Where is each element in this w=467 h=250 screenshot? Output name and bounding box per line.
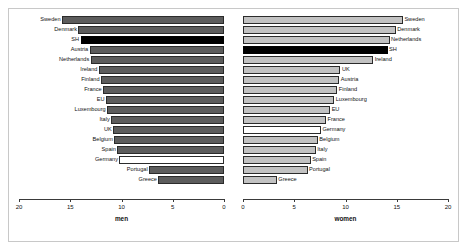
axis-tick (173, 199, 174, 202)
bar-sh (243, 46, 388, 54)
bar-track (243, 46, 448, 54)
chart-figure: SwedenDenmarkSHAustriaNetherlandsIreland… (8, 8, 459, 242)
bar-row: Italy (243, 145, 448, 155)
bar-sweden (243, 16, 403, 24)
bar-row: Greece (19, 175, 224, 185)
bar-portugal (149, 166, 224, 174)
chart-panel-men: SwedenDenmarkSHAustriaNetherlandsIreland… (9, 9, 235, 243)
bar-germany (243, 126, 321, 134)
category-label: Italy (99, 114, 109, 124)
bar-austria (90, 46, 224, 54)
bar-track (243, 116, 448, 124)
x-axis-women: 05101520 (243, 199, 448, 200)
category-label: Sweden (40, 14, 60, 24)
bar-track (19, 116, 224, 124)
axis-tick (397, 199, 398, 202)
category-label: Finland (339, 84, 357, 94)
bar-track (243, 166, 448, 174)
bar-row: Luxembourg (19, 105, 224, 115)
category-label: SH (71, 34, 79, 44)
axis-tick (294, 199, 295, 202)
bar-track (243, 176, 448, 184)
bar-row: Greece (243, 175, 448, 185)
bar-row: Spain (243, 155, 448, 165)
axis-tick-label: 10 (118, 204, 125, 210)
bar-ireland (243, 56, 373, 64)
bar-eu (243, 106, 330, 114)
bar-track (19, 46, 224, 54)
bar-track (243, 56, 448, 64)
bar-row: Germany (243, 125, 448, 135)
bar-row: EU (243, 105, 448, 115)
plot-area-men: SwedenDenmarkSHAustriaNetherlandsIreland… (19, 15, 224, 197)
category-label: Austria (341, 74, 358, 84)
bar-row: Spain (19, 145, 224, 155)
bar-luxembourg (243, 96, 334, 104)
axis-tick-label: 10 (342, 204, 349, 210)
bar-row: Germany (19, 155, 224, 165)
axis-tick-label: 0 (241, 204, 244, 210)
bar-eu (106, 96, 224, 104)
category-label: UK (342, 64, 350, 74)
bar-france (103, 86, 224, 94)
category-label: Spain (102, 144, 116, 154)
category-label: Germany (322, 124, 345, 134)
category-label: Ireland (80, 64, 97, 74)
bar-row: Italy (19, 115, 224, 125)
bar-uk (113, 126, 224, 134)
axis-tick (70, 199, 71, 202)
bar-track (243, 126, 448, 134)
category-label: Denmark (54, 24, 77, 34)
bar-finland (101, 76, 224, 84)
bar-sweden (62, 16, 224, 24)
bar-track (19, 176, 224, 184)
bar-track (19, 26, 224, 34)
bar-row: Denmark (19, 25, 224, 35)
category-label: Denmark (397, 24, 420, 34)
bar-row: UK (19, 125, 224, 135)
bar-greece (158, 176, 224, 184)
axis-tick (122, 199, 123, 202)
bar-track (19, 156, 224, 164)
bar-belgium (114, 136, 224, 144)
bar-germany (119, 156, 224, 164)
category-label: SH (389, 44, 397, 54)
bar-austria (243, 76, 339, 84)
bar-row: Austria (19, 45, 224, 55)
axis-tick (346, 199, 347, 202)
bar-track (19, 106, 224, 114)
category-label: Germany (95, 154, 118, 164)
bar-track (19, 76, 224, 84)
bar-netherlands (91, 56, 224, 64)
category-label: Luxembourg (75, 104, 106, 114)
bar-track (19, 166, 224, 174)
category-label: Greece (278, 174, 296, 184)
bar-row: SH (19, 35, 224, 45)
chart-panel-women: SwedenDenmarkNetherlandsSHIrelandUKAustr… (235, 9, 460, 243)
category-label: Belgium (319, 134, 339, 144)
axis-tick-label: 5 (171, 204, 174, 210)
category-label: Portugal (127, 164, 148, 174)
bar-track (19, 56, 224, 64)
axis-tick (224, 199, 225, 202)
bar-row: Belgium (243, 135, 448, 145)
x-axis-men: 20151050 (19, 199, 224, 200)
bar-spain (243, 156, 311, 164)
bar-portugal (243, 166, 308, 174)
bar-track (243, 106, 448, 114)
plot-area-women: SwedenDenmarkNetherlandsSHIrelandUKAustr… (243, 15, 448, 197)
bar-track (19, 126, 224, 134)
bar-greece (243, 176, 277, 184)
axis-tick-label: 15 (67, 204, 74, 210)
category-label: Luxembourg (336, 94, 367, 104)
bar-row: Belgium (19, 135, 224, 145)
bar-row: Netherlands (19, 55, 224, 65)
bar-track (243, 146, 448, 154)
bar-track (19, 66, 224, 74)
category-label: Portugal (309, 164, 330, 174)
axis-tick-label: 5 (293, 204, 296, 210)
axis-tick (243, 199, 244, 202)
category-label: France (84, 84, 101, 94)
category-label: Finland (81, 74, 99, 84)
axis-tick (19, 199, 20, 202)
